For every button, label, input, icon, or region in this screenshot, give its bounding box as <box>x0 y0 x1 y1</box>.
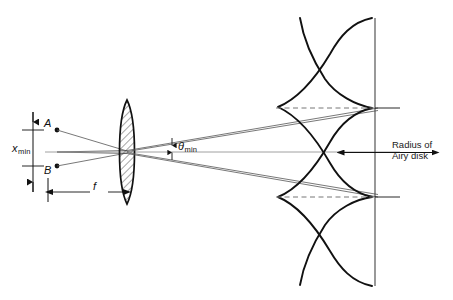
image-rays-group <box>127 108 378 197</box>
source-a-label: A <box>44 117 51 130</box>
ray-b-to-lens <box>57 153 127 166</box>
object-rays-group <box>57 130 127 166</box>
lens-body <box>120 100 135 204</box>
focal-length-dimension <box>48 178 124 202</box>
x-min-symbol: x <box>12 142 18 154</box>
theta-min-subscript: min <box>184 145 197 154</box>
x-min-label: xmin <box>12 142 30 155</box>
ray-lower-to-peak-b <box>127 154 378 198</box>
airy-disk-radius-line2: Airy disk <box>392 151 432 162</box>
ray-upper-to-peak-a <box>127 108 378 151</box>
airy-disk-radius-label: Radius of Airy disk <box>392 140 432 162</box>
ray-upper-outer <box>127 111 378 152</box>
theta-min-label: θmin <box>178 140 197 153</box>
diagram-canvas <box>0 0 453 300</box>
airy-disk-resolution-figure: A B xmin θmin f Radius of Airy disk <box>0 0 453 300</box>
x-min-subscript: min <box>18 147 31 156</box>
converging-lens <box>120 100 135 204</box>
source-points-group <box>55 128 60 169</box>
ray-a-to-lens <box>57 130 127 151</box>
focal-length-label: f <box>93 180 96 193</box>
source-b-label: B <box>44 164 51 177</box>
ray-lower-outer <box>127 153 378 195</box>
